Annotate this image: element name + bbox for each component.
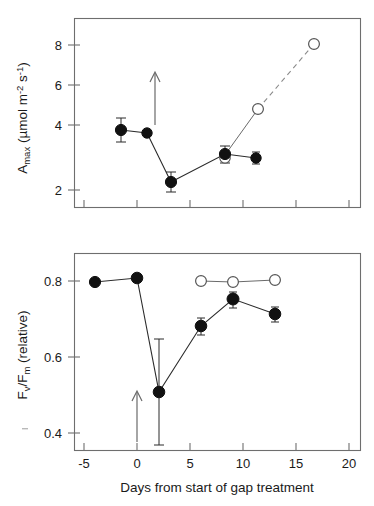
bottom-xtick-label-0: 0 bbox=[133, 456, 140, 471]
top-ytick-label-2: 2 bbox=[55, 183, 62, 198]
top-filled-point-2 bbox=[142, 128, 152, 138]
bottom-filled-point-2 bbox=[131, 272, 143, 284]
bottom-ylabel-rel: (relative) bbox=[15, 310, 30, 366]
bottom-panel-x-ticks bbox=[84, 443, 349, 450]
top-panel-gap-treatment-arrow bbox=[150, 72, 160, 125]
top-panel-x-ticks bbox=[84, 200, 349, 207]
bottom-filled-point-3 bbox=[153, 386, 165, 398]
bottom-filled-point-5 bbox=[227, 293, 239, 305]
bottom-xtick-label-10: 10 bbox=[236, 456, 250, 471]
top-filled-point-4 bbox=[219, 148, 230, 159]
top-ylabel-unit-sup1: -2 bbox=[14, 86, 25, 94]
top-filled-point-1 bbox=[115, 124, 126, 135]
top-ylabel-unit-b: s bbox=[15, 75, 30, 86]
bottom-ylabel-m: m bbox=[21, 367, 32, 375]
top-filled-point-3 bbox=[165, 176, 176, 187]
bottom-ylabel-slash-f: /F bbox=[15, 375, 30, 387]
bottom-panel: 0.8 0.6 0.4 -5 0 5 10 15 20 Fv/Fm bbox=[15, 254, 361, 496]
bottom-open-point-3 bbox=[270, 275, 281, 286]
bottom-filled-point-1 bbox=[89, 276, 100, 287]
scan-artifact-mark bbox=[22, 428, 28, 429]
bottom-filled-point-6 bbox=[269, 308, 281, 320]
top-ylabel-main: A bbox=[15, 165, 30, 174]
bottom-ylabel-f: F bbox=[15, 391, 30, 399]
bottom-xtick-label-20: 20 bbox=[342, 456, 356, 471]
bottom-xtick-label-minus5: -5 bbox=[78, 456, 90, 471]
top-ylabel-subscript: max bbox=[21, 147, 32, 165]
svg-text:Fv/Fm (relative): Fv/Fm (relative) bbox=[15, 310, 32, 399]
top-panel-y-axis-title: Amax (µmol m-2 s-1) bbox=[14, 62, 32, 174]
bottom-open-point-2 bbox=[228, 277, 239, 288]
top-ytick-label-6: 6 bbox=[55, 78, 62, 93]
top-open-series-line-solid bbox=[225, 109, 258, 155]
figure-container: 8 6 4 2 Amax (µmol m-2 s-1) bbox=[0, 0, 374, 506]
bottom-ytick-label-08: 0.8 bbox=[44, 274, 62, 289]
bottom-xtick-label-15: 15 bbox=[289, 456, 303, 471]
top-open-series-line-dashed bbox=[258, 44, 314, 109]
bottom-filled-point-4 bbox=[195, 320, 207, 332]
bottom-ytick-label-04: 0.4 bbox=[44, 426, 62, 441]
x-axis-title: Days from start of gap treatment bbox=[120, 480, 314, 495]
top-open-point-2 bbox=[253, 104, 264, 115]
bottom-panel-error-bars bbox=[154, 292, 279, 445]
top-ylabel-unit-a: (µmol m bbox=[15, 94, 30, 147]
top-open-point-3 bbox=[309, 39, 320, 50]
figure-svg: 8 6 4 2 Amax (µmol m-2 s-1) bbox=[0, 0, 374, 506]
top-panel: 8 6 4 2 Amax (µmol m-2 s-1) bbox=[14, 19, 361, 208]
bottom-xtick-label-5: 5 bbox=[186, 456, 193, 471]
bottom-panel-frame bbox=[75, 254, 361, 451]
bottom-open-point-1 bbox=[196, 276, 207, 287]
top-ylabel-unit-sup2: -1 bbox=[14, 67, 25, 75]
bottom-panel-gap-treatment-arrow bbox=[132, 391, 142, 442]
top-ytick-label-4: 4 bbox=[55, 118, 62, 133]
top-filled-point-5 bbox=[251, 153, 261, 163]
bottom-ytick-label-06: 0.6 bbox=[44, 350, 62, 365]
top-ylabel-unit-c: ) bbox=[15, 62, 30, 67]
top-panel-error-bars bbox=[116, 118, 260, 192]
bottom-filled-series-line bbox=[95, 278, 275, 392]
svg-text:Amax (µmol m-2 s-1): Amax (µmol m-2 s-1) bbox=[14, 62, 32, 174]
top-filled-series-line bbox=[121, 130, 256, 182]
bottom-panel-y-axis-title: Fv/Fm (relative) bbox=[15, 310, 32, 399]
top-ytick-label-8: 8 bbox=[55, 38, 62, 53]
